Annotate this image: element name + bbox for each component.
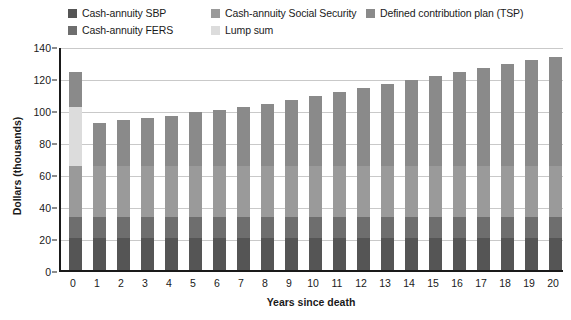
bar-segment[interactable]: [453, 238, 466, 270]
bar-segment[interactable]: [525, 238, 538, 270]
bar-segment[interactable]: [285, 217, 298, 238]
stacked-bar[interactable]: [525, 60, 538, 270]
stacked-bar[interactable]: [189, 112, 202, 270]
bar-segment[interactable]: [213, 110, 226, 166]
bar-segment[interactable]: [525, 217, 538, 238]
stacked-bar[interactable]: [141, 118, 154, 270]
bar-segment[interactable]: [213, 238, 226, 270]
legend-item[interactable]: Cash-annuity Social Security: [211, 6, 356, 21]
bar-segment[interactable]: [189, 238, 202, 270]
legend-item[interactable]: Defined contribution plan (TSP): [366, 6, 523, 21]
bar-segment[interactable]: [165, 217, 178, 238]
bar-segment[interactable]: [477, 166, 490, 217]
bar-segment[interactable]: [429, 217, 442, 238]
bar-segment[interactable]: [69, 72, 82, 107]
bar-segment[interactable]: [165, 166, 178, 217]
bar-segment[interactable]: [93, 217, 106, 238]
bar-segment[interactable]: [477, 68, 490, 166]
legend-item[interactable]: Lump sum: [211, 23, 356, 38]
bar-segment[interactable]: [429, 76, 442, 166]
bar-segment[interactable]: [453, 72, 466, 166]
bar-segment[interactable]: [213, 166, 226, 217]
bar-segment[interactable]: [453, 166, 466, 217]
bar-segment[interactable]: [381, 84, 394, 166]
bar-segment[interactable]: [189, 112, 202, 166]
bar-segment[interactable]: [141, 118, 154, 166]
bar-segment[interactable]: [357, 217, 370, 238]
bar-segment[interactable]: [405, 166, 418, 217]
bar-segment[interactable]: [309, 96, 322, 166]
bar-segment[interactable]: [501, 166, 514, 217]
bar-segment[interactable]: [117, 238, 130, 270]
bar-segment[interactable]: [69, 107, 82, 166]
bar-segment[interactable]: [549, 166, 562, 217]
stacked-bar[interactable]: [501, 64, 514, 270]
stacked-bar[interactable]: [453, 72, 466, 270]
bar-segment[interactable]: [141, 238, 154, 270]
bar-segment[interactable]: [93, 166, 106, 217]
bar-segment[interactable]: [93, 123, 106, 166]
bar-segment[interactable]: [117, 120, 130, 166]
stacked-bar[interactable]: [405, 80, 418, 270]
bar-segment[interactable]: [357, 166, 370, 217]
bar-segment[interactable]: [477, 217, 490, 238]
bar-segment[interactable]: [405, 80, 418, 166]
bar-segment[interactable]: [381, 238, 394, 270]
stacked-bar[interactable]: [381, 84, 394, 270]
stacked-bar[interactable]: [93, 123, 106, 270]
bar-segment[interactable]: [69, 238, 82, 270]
stacked-bar[interactable]: [549, 57, 562, 270]
bar-segment[interactable]: [141, 166, 154, 217]
bar-segment[interactable]: [213, 217, 226, 238]
bar-segment[interactable]: [285, 238, 298, 270]
bar-segment[interactable]: [357, 88, 370, 166]
bar-segment[interactable]: [237, 166, 250, 217]
bar-segment[interactable]: [501, 238, 514, 270]
bar-segment[interactable]: [117, 217, 130, 238]
stacked-bar[interactable]: [285, 100, 298, 270]
bar-segment[interactable]: [333, 238, 346, 270]
stacked-bar[interactable]: [477, 68, 490, 270]
stacked-bar[interactable]: [429, 76, 442, 270]
bar-segment[interactable]: [261, 238, 274, 270]
bar-segment[interactable]: [309, 217, 322, 238]
bar-segment[interactable]: [549, 238, 562, 270]
bar-segment[interactable]: [285, 100, 298, 166]
bar-segment[interactable]: [501, 217, 514, 238]
bar-segment[interactable]: [165, 116, 178, 166]
bar-segment[interactable]: [69, 166, 82, 217]
bar-segment[interactable]: [549, 57, 562, 166]
bar-segment[interactable]: [237, 107, 250, 166]
bar-segment[interactable]: [525, 60, 538, 166]
bar-segment[interactable]: [549, 217, 562, 238]
bar-segment[interactable]: [141, 217, 154, 238]
bar-segment[interactable]: [261, 166, 274, 217]
stacked-bar[interactable]: [309, 96, 322, 270]
bar-segment[interactable]: [405, 238, 418, 270]
stacked-bar[interactable]: [333, 92, 346, 270]
bar-segment[interactable]: [333, 217, 346, 238]
bar-segment[interactable]: [261, 104, 274, 166]
bar-segment[interactable]: [525, 166, 538, 217]
bar-segment[interactable]: [285, 166, 298, 217]
stacked-bar[interactable]: [261, 104, 274, 270]
bar-segment[interactable]: [189, 166, 202, 217]
bar-segment[interactable]: [117, 166, 130, 217]
bar-segment[interactable]: [333, 92, 346, 166]
legend-item[interactable]: Cash-annuity FERS: [68, 23, 173, 38]
stacked-bar[interactable]: [237, 107, 250, 270]
stacked-bar[interactable]: [213, 110, 226, 270]
bar-segment[interactable]: [237, 217, 250, 238]
bar-segment[interactable]: [405, 217, 418, 238]
legend-item[interactable]: Cash-annuity SBP: [68, 6, 173, 21]
stacked-bar[interactable]: [357, 88, 370, 270]
bar-segment[interactable]: [189, 217, 202, 238]
bar-segment[interactable]: [381, 166, 394, 217]
bar-segment[interactable]: [429, 166, 442, 217]
bar-segment[interactable]: [69, 217, 82, 238]
stacked-bar[interactable]: [165, 116, 178, 270]
stacked-bar[interactable]: [117, 120, 130, 270]
bar-segment[interactable]: [237, 238, 250, 270]
bar-segment[interactable]: [357, 238, 370, 270]
bar-segment[interactable]: [165, 238, 178, 270]
